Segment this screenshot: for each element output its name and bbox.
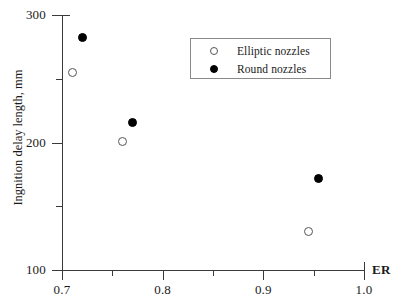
x-tick-major	[364, 262, 365, 280]
scatter-chart: Ingnition delay length, mm ER 3002001000…	[0, 0, 406, 307]
x-tick-major	[263, 270, 264, 280]
y-tick-minor	[56, 79, 63, 80]
data-point	[304, 227, 313, 236]
y-tick-label: 300	[0, 7, 46, 23]
y-tick-major	[52, 15, 70, 16]
x-tick-label: 0.8	[141, 282, 185, 298]
x-tick-major	[163, 270, 164, 280]
y-tick-major	[52, 270, 70, 271]
y-tick-label: 200	[0, 135, 46, 151]
y-tick-label: 100	[0, 262, 46, 278]
legend-item-label: Elliptic nozzles	[237, 45, 310, 57]
x-tick-label: 0.9	[241, 282, 285, 298]
data-point	[68, 68, 77, 77]
y-tick-minor	[56, 206, 63, 207]
x-tick-minor	[213, 270, 214, 276]
legend-marker-cell	[191, 65, 237, 73]
data-point	[314, 174, 323, 183]
y-tick-major	[52, 143, 63, 144]
data-point	[128, 118, 137, 127]
legend-item-label: Round nozzles	[237, 63, 306, 75]
legend-item-elliptic-nozzles: Elliptic nozzles	[191, 41, 330, 61]
x-tick-label: 0.7	[40, 282, 84, 298]
open-circle-icon	[210, 47, 218, 55]
x-tick-label: 1.0	[342, 282, 386, 298]
data-point	[78, 33, 87, 42]
data-point	[118, 137, 127, 146]
x-tick-minor	[112, 270, 113, 276]
filled-circle-icon	[210, 65, 218, 73]
chart-legend: Elliptic nozzles Round nozzles	[190, 38, 331, 79]
legend-marker-cell	[191, 47, 237, 55]
x-tick-major	[62, 262, 63, 280]
x-tick-minor	[314, 270, 315, 276]
x-axis-title: ER	[372, 262, 391, 278]
legend-item-round-nozzles: Round nozzles	[191, 59, 330, 79]
